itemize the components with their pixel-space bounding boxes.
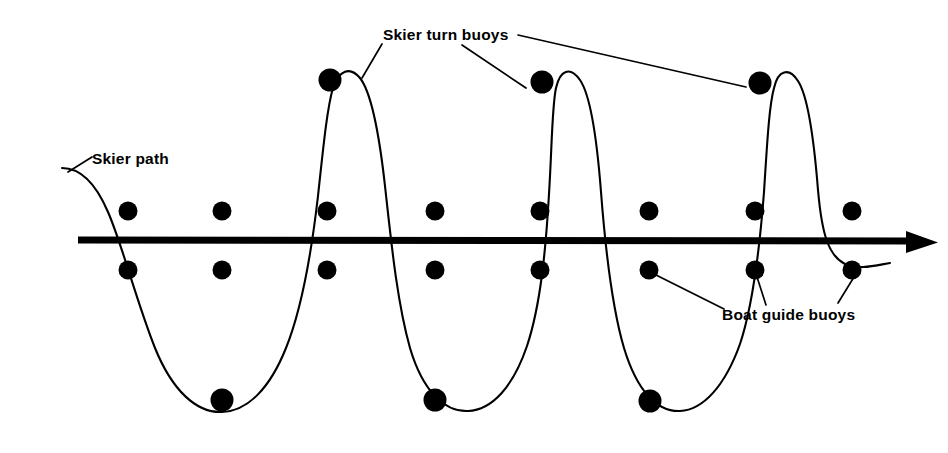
boat-guide-buoy (531, 261, 550, 280)
boat-path-arrow-icon (906, 231, 938, 253)
leader-line-boat-guide-buoy-middle (757, 277, 766, 305)
skier-turn-buoy (639, 390, 662, 413)
boat-guide-buoy (746, 202, 765, 221)
boat-guide-buoy (213, 202, 232, 221)
boat-guide-buoy (318, 202, 337, 221)
skier-turn-buoy (319, 69, 342, 92)
label-skier-path: Skier path (92, 150, 169, 167)
slalom-course-diagram: Skier path Skier turn buoys Boat guide b… (0, 0, 948, 453)
course-svg: Skier path Skier turn buoys Boat guide b… (0, 0, 948, 453)
boat-guide-buoy (426, 202, 445, 221)
label-skier-turn-buoys: Skier turn buoys (383, 26, 509, 43)
boat-guide-buoy (746, 261, 765, 280)
boat-path-centerline (78, 240, 912, 241)
leader-line-boat-guide-buoy-left (654, 274, 724, 309)
boat-guide-buoy (426, 261, 445, 280)
boat-guide-buoy (119, 202, 138, 221)
leader-line-skier-path (68, 157, 92, 172)
boat-guide-buoy (843, 261, 862, 280)
skier-turn-buoy (531, 71, 554, 94)
leader-line-skier-turn-buoy-left (362, 44, 382, 78)
boat-guide-buoy (119, 261, 138, 280)
skier-turn-buoy (424, 389, 447, 412)
boat-guide-buoy (843, 202, 862, 221)
leader-line-skier-turn-buoy-middle (462, 45, 526, 88)
boat-guide-buoy (640, 261, 659, 280)
label-boat-guide-buoys: Boat guide buoys (722, 306, 855, 323)
boat-guide-buoy (213, 261, 232, 280)
boat-guide-buoy (531, 202, 550, 221)
boat-guide-buoy (318, 261, 337, 280)
boat-guide-buoy (640, 202, 659, 221)
skier-turn-buoy (749, 72, 772, 95)
leader-line-boat-guide-buoy-right (838, 277, 854, 303)
skier-turn-buoy (211, 389, 234, 412)
